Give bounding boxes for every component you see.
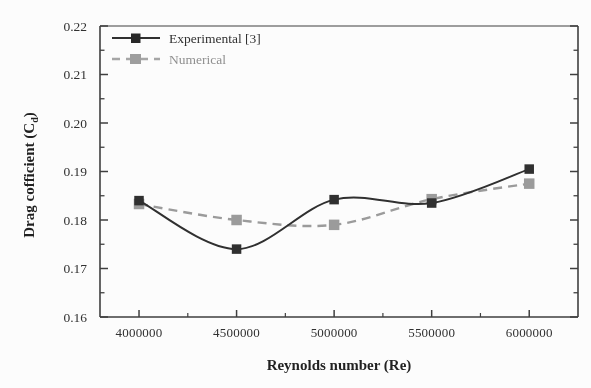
x-tick-label: 4000000 <box>116 325 163 340</box>
data-point-marker-numerical <box>231 215 242 226</box>
y-tick-label: 0.21 <box>63 67 87 82</box>
y-axis-title-tail: ) <box>21 112 38 117</box>
x-tick-label: 6000000 <box>506 325 553 340</box>
data-point-marker-experimental <box>427 198 437 208</box>
data-point-marker-experimental <box>134 196 144 206</box>
chart-background <box>0 0 591 388</box>
x-tick-label: 4500000 <box>213 325 260 340</box>
x-axis-title-group: Reynolds number (Re) <box>267 357 412 374</box>
y-axis-title-main: Drag cofficient (C <box>21 123 38 238</box>
legend-marker-experimental <box>131 34 141 44</box>
legend-marker-numerical <box>130 54 141 64</box>
data-point-marker-experimental <box>329 195 339 205</box>
data-point-marker-experimental <box>232 244 242 254</box>
drag-coefficient-vs-reynolds-chart: 0.160.170.180.190.200.210.22 40000004500… <box>0 0 591 388</box>
y-tick-label: 0.18 <box>63 213 87 228</box>
y-tick-label: 0.22 <box>63 19 87 34</box>
legend-label-experimental: Experimental [3] <box>169 31 261 46</box>
chart-figure: 0.160.170.180.190.200.210.22 40000004500… <box>0 0 591 388</box>
y-tick-label: 0.17 <box>63 261 87 276</box>
y-tick-label: 0.16 <box>63 310 87 325</box>
data-point-marker-experimental <box>524 164 534 174</box>
y-tick-label: 0.19 <box>63 164 87 179</box>
legend-label-numerical: Numerical <box>169 52 226 67</box>
x-tick-label: 5500000 <box>408 325 455 340</box>
y-tick-label: 0.20 <box>63 116 87 131</box>
x-tick-label: 5000000 <box>311 325 358 340</box>
data-point-marker-numerical <box>524 178 535 189</box>
data-point-marker-numerical <box>329 220 340 231</box>
x-axis-title: Reynolds number (Re) <box>267 357 412 374</box>
